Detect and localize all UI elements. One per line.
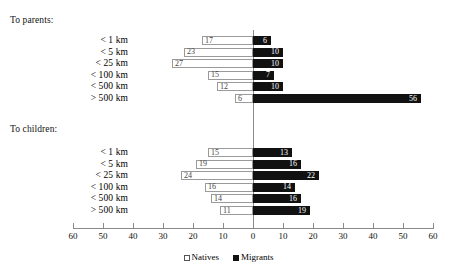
- bar-value-label: 22: [307, 172, 315, 180]
- bar-migrants: 16: [253, 160, 301, 169]
- category-label: > 500 km: [10, 205, 128, 215]
- x-tick-label: 20: [298, 231, 328, 241]
- x-tick-mark: [103, 223, 104, 228]
- bar-value-label: 19: [298, 207, 306, 215]
- diverging-bar-chart: To parents: To children: 605040302010010…: [0, 0, 457, 272]
- bar-migrants: 19: [253, 206, 310, 215]
- bar-value-label: 16: [208, 183, 216, 191]
- bar-value-label: 7: [266, 71, 270, 79]
- bar-value-label: 17: [205, 37, 213, 45]
- bar-value-label: 6: [238, 95, 242, 103]
- bar-natives: 15: [208, 148, 253, 157]
- x-tick-label: 50: [388, 231, 418, 241]
- x-axis-line: [73, 228, 434, 229]
- bar-natives: 17: [202, 36, 253, 45]
- category-label: < 1 km: [10, 35, 128, 45]
- bar-migrants: 14: [253, 183, 295, 192]
- legend-item-migrants: Migrants: [233, 252, 274, 262]
- category-label: < 1 km: [10, 147, 128, 157]
- x-tick-label: 50: [88, 231, 118, 241]
- bar-value-label: 56: [409, 95, 417, 103]
- category-label: < 100 km: [10, 182, 128, 192]
- x-tick-label: 40: [118, 231, 148, 241]
- x-tick-mark: [283, 223, 284, 228]
- category-label: < 5 km: [10, 47, 128, 57]
- bar-migrants: 10: [253, 48, 283, 57]
- category-label: > 500 km: [10, 93, 128, 103]
- x-tick-mark: [163, 223, 164, 228]
- bar-migrants: 13: [253, 148, 292, 157]
- x-tick-label: 60: [418, 231, 448, 241]
- x-tick-label: 30: [148, 231, 178, 241]
- x-tick-label: 20: [178, 231, 208, 241]
- bar-natives: 27: [172, 59, 253, 68]
- x-tick-label: 30: [328, 231, 358, 241]
- bar-value-label: 12: [220, 83, 228, 91]
- bar-value-label: 10: [271, 48, 279, 56]
- bar-natives: 24: [181, 171, 253, 180]
- x-tick-label: 10: [208, 231, 238, 241]
- legend-swatch-icon: [233, 255, 239, 261]
- chart-legend: NativesMigrants: [0, 252, 457, 262]
- bar-natives: 12: [217, 82, 253, 91]
- x-tick-mark: [73, 223, 74, 228]
- category-label: < 100 km: [10, 70, 128, 80]
- bar-natives: 16: [205, 183, 253, 192]
- x-tick-mark: [253, 223, 254, 228]
- bar-migrants: 7: [253, 71, 274, 80]
- bar-value-label: 24: [184, 172, 192, 180]
- category-label: < 500 km: [10, 193, 128, 203]
- x-tick-mark: [133, 223, 134, 228]
- bar-natives: 6: [235, 94, 253, 103]
- bar-migrants: 10: [253, 59, 283, 68]
- x-tick-mark: [193, 223, 194, 228]
- legend-label: Natives: [192, 252, 220, 262]
- bar-natives: 19: [196, 160, 253, 169]
- legend-swatch-icon: [184, 255, 190, 261]
- bar-value-label: 15: [211, 71, 219, 79]
- category-label: < 500 km: [10, 81, 128, 91]
- x-tick-mark: [343, 223, 344, 228]
- x-tick-label: 10: [268, 231, 298, 241]
- bar-value-label: 14: [214, 195, 222, 203]
- bar-migrants: 16: [253, 194, 301, 203]
- bar-migrants: 56: [253, 94, 421, 103]
- bar-value-label: 14: [283, 183, 291, 191]
- bar-natives: 14: [211, 194, 253, 203]
- bar-migrants: 6: [253, 36, 271, 45]
- bar-value-label: 27: [175, 60, 183, 68]
- bar-value-label: 19: [199, 160, 207, 168]
- category-label: < 25 km: [10, 170, 128, 180]
- bar-migrants: 22: [253, 171, 319, 180]
- x-tick-mark: [223, 223, 224, 228]
- bar-value-label: 16: [289, 160, 297, 168]
- bar-natives: 23: [184, 48, 253, 57]
- plot-area: 6050403020100102030405060 17623102710157…: [0, 0, 457, 272]
- bar-value-label: 15: [211, 149, 219, 157]
- category-label: < 25 km: [10, 58, 128, 68]
- bar-natives: 11: [220, 206, 253, 215]
- x-tick-mark: [313, 223, 314, 228]
- bar-value-label: 6: [263, 37, 267, 45]
- bar-value-label: 23: [187, 48, 195, 56]
- x-tick-label: 60: [58, 231, 88, 241]
- bar-value-label: 11: [223, 207, 231, 215]
- bar-migrants: 10: [253, 82, 283, 91]
- legend-label: Migrants: [241, 252, 274, 262]
- legend-item-natives: Natives: [184, 252, 220, 262]
- x-tick-mark: [433, 223, 434, 228]
- x-tick-label: 40: [358, 231, 388, 241]
- bar-value-label: 10: [271, 60, 279, 68]
- category-label: < 5 km: [10, 159, 128, 169]
- x-tick-label: 0: [238, 231, 268, 241]
- x-tick-mark: [373, 223, 374, 228]
- x-tick-mark: [403, 223, 404, 228]
- bar-value-label: 10: [271, 83, 279, 91]
- bar-value-label: 13: [280, 149, 288, 157]
- bar-natives: 15: [208, 71, 253, 80]
- bar-value-label: 16: [289, 195, 297, 203]
